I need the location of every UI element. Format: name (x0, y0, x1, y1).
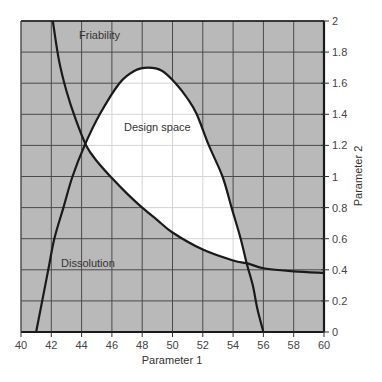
x-tick-label: 50 (166, 339, 178, 351)
x-tick-label: 52 (197, 339, 209, 351)
y-tick-label: 1 (332, 171, 338, 183)
x-tick-label: 48 (136, 339, 148, 351)
x-tick-label: 56 (257, 339, 269, 351)
dissolution-label: Dissolution (61, 257, 115, 269)
y-tick-label: 0.6 (332, 233, 347, 245)
design-space-label: Design space (124, 121, 191, 133)
x-tick-label: 58 (288, 339, 300, 351)
y-tick-label: 0.4 (332, 264, 347, 276)
design-space-chart: 4042444648505254565860 00.20.40.60.811.2… (0, 0, 382, 382)
plot-area (21, 21, 324, 332)
y-tick-label: 0.2 (332, 295, 347, 307)
x-axis-title: Parameter 1 (142, 354, 203, 366)
y-tick-label: 1.6 (332, 77, 347, 89)
y-tick-label: 1.4 (332, 108, 347, 120)
y-tick-label: 1.8 (332, 46, 347, 58)
y-tick-label: 0 (332, 326, 338, 338)
x-axis-ticks: 4042444648505254565860 (15, 332, 330, 351)
y-tick-label: 0.8 (332, 202, 347, 214)
x-tick-label: 42 (45, 339, 57, 351)
x-tick-label: 40 (15, 339, 27, 351)
friability-label: Friability (79, 29, 120, 41)
x-tick-label: 44 (75, 339, 87, 351)
x-tick-label: 60 (318, 339, 330, 351)
x-tick-label: 54 (227, 339, 239, 351)
x-tick-label: 46 (106, 339, 118, 351)
y-tick-label: 1.2 (332, 139, 347, 151)
y-axis-title: Parameter 2 (352, 146, 364, 207)
y-tick-label: 2 (332, 15, 338, 27)
